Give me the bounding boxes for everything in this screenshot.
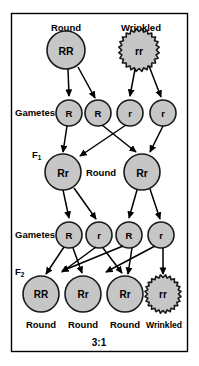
f2-genotype-Rr-1: Rr <box>77 289 88 300</box>
gamete1-genotype-2: r <box>128 108 132 119</box>
gamete2-genotype-1: r <box>97 230 101 241</box>
f2-phenotype-3: Wrinkled <box>146 320 182 330</box>
gamete2-genotype-0: R <box>66 230 73 241</box>
f1-label-subscript: 1 <box>38 154 42 161</box>
phenotypic-ratio: 3:1 <box>92 337 107 348</box>
f1-genotype-1: Rr <box>136 167 148 179</box>
gamete2-genotype-2: R <box>126 230 133 241</box>
parent-genotype-RR: RR <box>58 45 74 57</box>
punnett-cross-diagram: Round Wrinkled RR rr Gametes R R r r <box>0 0 199 366</box>
f2-label-subscript: 2 <box>21 271 25 278</box>
f2-genotype-RR: RR <box>34 289 49 300</box>
f2-phenotype-2: Round <box>110 319 140 330</box>
gamete1-genotype-3: r <box>161 108 165 119</box>
gamete1-genotype-1: R <box>95 108 102 119</box>
gamete2-genotype-3: r <box>159 230 163 241</box>
f1-phenotype-round: Round <box>86 167 116 178</box>
gametes-row-2-label: Gametes <box>15 229 55 240</box>
f1-genotype-0: Rr <box>57 167 69 179</box>
parent-genotype-rr: rr <box>135 45 143 57</box>
f2-phenotype-1: Round <box>68 319 98 330</box>
f2-genotype-rr: rr <box>159 289 167 300</box>
f2-genotype-Rr-2: Rr <box>119 289 130 300</box>
gamete1-genotype-0: R <box>66 108 73 119</box>
cross-diagram-canvas: Round Wrinkled RR rr Gametes R R r r <box>0 0 199 366</box>
f2-phenotype-0: Round <box>26 319 56 330</box>
gametes-row-1-label: Gametes <box>15 107 55 118</box>
arrow-RR-to-gamete-R1 <box>68 69 69 96</box>
